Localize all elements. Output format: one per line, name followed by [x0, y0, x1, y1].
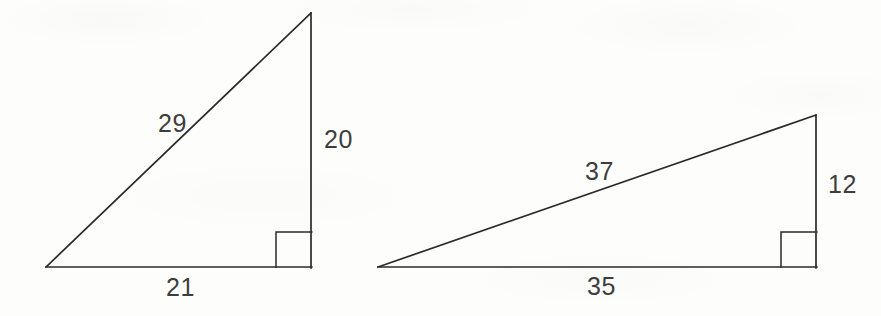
right-triangle-hypotenuse-label: 37 — [585, 159, 614, 184]
right-triangle-group — [378, 115, 817, 268]
geometry-figure: 29 20 21 37 12 35 — [0, 0, 881, 316]
left-triangle-hypotenuse-label: 29 — [158, 111, 187, 136]
left-triangle-vertical-leg-label: 20 — [324, 127, 353, 152]
right-triangle-right-angle-marker — [781, 232, 817, 267]
triangles-svg — [0, 0, 881, 316]
right-triangle-hypotenuse — [378, 115, 816, 267]
right-triangle-vertical-leg-label: 12 — [828, 172, 857, 197]
left-triangle-hypotenuse — [46, 13, 311, 267]
left-triangle-right-angle-marker — [276, 232, 312, 267]
left-triangle-horizontal-leg-label: 21 — [166, 275, 195, 300]
right-triangle-horizontal-leg-label: 35 — [587, 274, 616, 299]
left-triangle-group — [46, 13, 312, 268]
